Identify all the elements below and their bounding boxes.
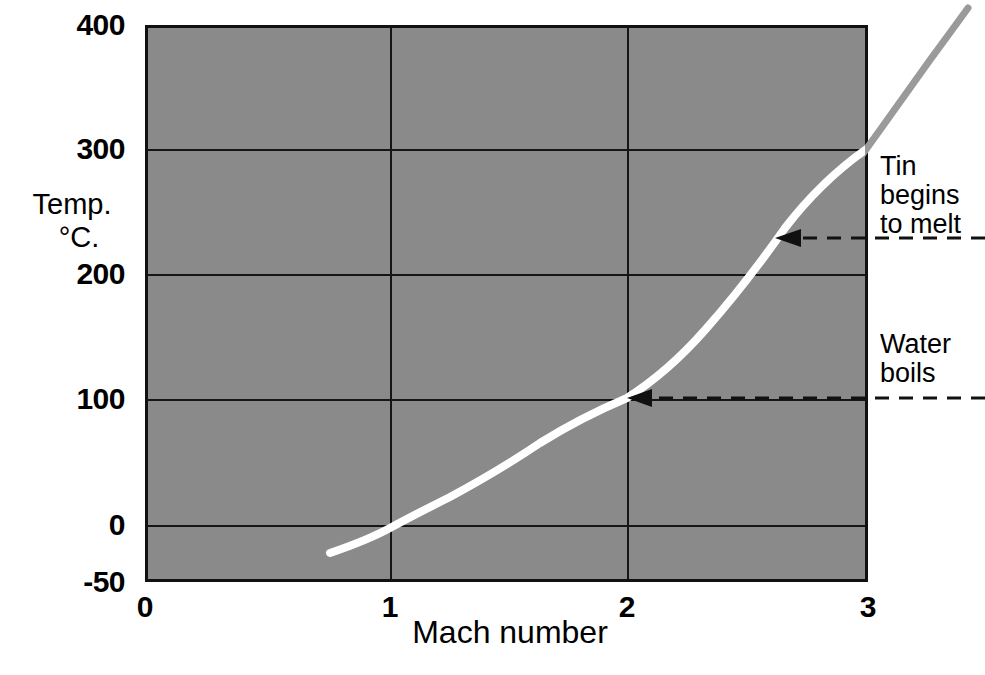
ytick-label-0: 0 (5, 510, 125, 540)
ytick-label-400: 400 (5, 10, 125, 40)
annotation-tin-line1: Tin (880, 152, 961, 181)
xtick-label-3: 3 (838, 592, 898, 622)
gridline-y-300 (148, 149, 865, 151)
annotation-water-line1: Water (880, 330, 951, 359)
plot-area (145, 25, 868, 582)
annotation-tin-begins-to-melt: Tin begins to melt (880, 152, 961, 239)
annotation-tin-line3: to melt (880, 210, 961, 239)
ytick-label-300: 300 (5, 134, 125, 164)
ytick-label-200: 200 (5, 259, 125, 289)
curve-extension (862, 8, 968, 155)
ytick-label-100: 100 (5, 384, 125, 414)
chart-figure: 400 300 200 100 0 -50 0 1 2 3 Temp. °C. … (0, 0, 985, 675)
y-axis-title: Temp. °C. (8, 188, 136, 254)
gridline-y-100 (148, 399, 865, 401)
annotation-water-line2: boils (880, 359, 951, 388)
annotation-water-boils: Water boils (880, 330, 951, 388)
gridline-x-1 (390, 28, 392, 579)
gridline-y-0 (148, 525, 865, 527)
gridline-x-2 (627, 28, 629, 579)
y-axis-title-line2: °C. (8, 221, 136, 254)
gridline-y-200 (148, 274, 865, 276)
xtick-label-0: 0 (115, 592, 175, 622)
annotation-tin-line2: begins (880, 181, 961, 210)
y-axis-title-line1: Temp. (33, 188, 112, 220)
x-axis-title: Mach number (345, 615, 675, 649)
ytick-label--50: -50 (5, 567, 125, 597)
